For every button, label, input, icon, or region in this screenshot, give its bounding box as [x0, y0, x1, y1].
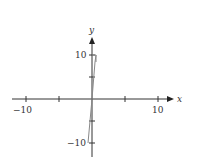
y-tick-label-10: 10	[75, 50, 87, 60]
x-axis-arrow-icon	[167, 96, 174, 102]
x-axis-label: x	[177, 94, 182, 104]
chart: x y −10 10 10 −10	[0, 0, 197, 165]
x-tick-label-neg10: −10	[13, 105, 32, 115]
y-tick-label-neg10: −10	[67, 138, 86, 148]
x-tick-label-10: 10	[152, 105, 164, 115]
y-axis-arrow-icon	[89, 37, 95, 44]
y-axis-label: y	[88, 25, 95, 35]
